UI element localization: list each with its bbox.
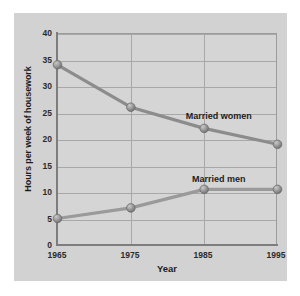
y-axis-line bbox=[56, 32, 58, 246]
gridline-horizontal bbox=[58, 220, 276, 221]
y-tick-label: 0 bbox=[32, 241, 52, 250]
series-label-married-women: Married women bbox=[186, 111, 252, 121]
y-axis-title: Hours per week of housework bbox=[23, 39, 33, 219]
x-axis-line bbox=[56, 244, 278, 246]
y-tick-label: 15 bbox=[32, 162, 52, 171]
y-tick-label: 25 bbox=[32, 109, 52, 118]
y-tick-label: 20 bbox=[32, 135, 52, 144]
x-tick-label: 1965 bbox=[37, 250, 77, 260]
x-tick-label: 1995 bbox=[256, 250, 296, 260]
gridline-vertical bbox=[131, 34, 132, 244]
series-label-married-men: Married men bbox=[192, 174, 246, 184]
gridline-horizontal bbox=[58, 140, 276, 141]
gridline-horizontal bbox=[58, 61, 276, 62]
y-tick-label: 5 bbox=[32, 215, 52, 224]
x-tick-label: 1985 bbox=[183, 250, 223, 260]
y-tick-label: 10 bbox=[32, 188, 52, 197]
gridline-horizontal bbox=[58, 34, 276, 35]
gridline-horizontal bbox=[58, 87, 276, 88]
gridline-vertical bbox=[204, 34, 205, 244]
y-tick-label: 35 bbox=[32, 56, 52, 65]
gridline-horizontal bbox=[58, 193, 276, 194]
gridline-horizontal bbox=[58, 167, 276, 168]
y-tick-label: 30 bbox=[32, 82, 52, 91]
plot-area bbox=[57, 33, 277, 245]
chart-figure: 40 35 30 25 20 15 10 5 0 1965 1975 1985 … bbox=[0, 0, 300, 296]
y-tick-label: 40 bbox=[32, 29, 52, 38]
x-tick-label: 1975 bbox=[110, 250, 150, 260]
x-axis-title: Year bbox=[57, 263, 277, 274]
